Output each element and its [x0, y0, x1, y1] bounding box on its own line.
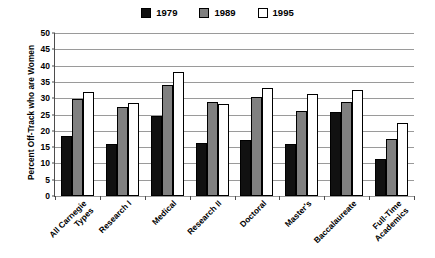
- legend-swatch-1989: [199, 8, 209, 18]
- bar-1989-6: [341, 102, 352, 196]
- bar-1989-0: [72, 99, 83, 196]
- bar-1995-4: [262, 88, 273, 196]
- bar-1979-5: [285, 144, 296, 196]
- bar-1995-3: [218, 104, 229, 196]
- y-tick-label: 35: [41, 78, 50, 87]
- y-tick-label: 25: [41, 110, 50, 119]
- bar-1995-6: [352, 90, 363, 196]
- bar-1995-5: [307, 94, 318, 196]
- bar-1989-2: [162, 85, 173, 196]
- x-tick-mark: [414, 196, 415, 200]
- y-tick-label: 10: [41, 159, 50, 168]
- bar-group: [55, 33, 100, 196]
- y-tick-label: 45: [41, 45, 50, 54]
- bar-1979-6: [330, 112, 341, 196]
- bar-1995-1: [128, 103, 139, 196]
- y-axis-title: Percent Off-Track who are Women: [24, 25, 38, 200]
- legend-entry-1995: 1995: [258, 8, 294, 18]
- bar-1979-4: [240, 140, 251, 196]
- legend-swatch-1979: [141, 8, 151, 18]
- bar-group: [279, 33, 324, 196]
- y-tick-label: 5: [45, 175, 50, 184]
- legend-entry-1979: 1979: [141, 8, 177, 18]
- bar-group: [190, 33, 235, 196]
- legend-swatch-1995: [258, 8, 268, 18]
- bar-1995-7: [397, 123, 408, 196]
- bar-1989-4: [251, 97, 262, 196]
- bar-1979-3: [196, 143, 207, 196]
- bar-group: [369, 33, 414, 196]
- y-tick-label: 0: [45, 192, 50, 201]
- bar-groups: [55, 33, 414, 196]
- bar-chart: 1979 1989 1995 Percent Off-Track who are…: [0, 0, 435, 258]
- legend-label-1979: 1979: [156, 8, 177, 18]
- bar-1979-0: [61, 136, 72, 196]
- bar-1995-0: [83, 92, 94, 196]
- legend-label-1995: 1995: [273, 8, 294, 18]
- y-tick-label: 20: [41, 127, 50, 136]
- y-tick-label: 15: [41, 143, 50, 152]
- y-tick-label: 30: [41, 94, 50, 103]
- legend-entry-1989: 1989: [199, 8, 235, 18]
- bar-1995-2: [173, 72, 184, 196]
- bar-1979-1: [106, 144, 117, 196]
- chart-legend: 1979 1989 1995: [0, 8, 435, 18]
- bar-1989-7: [386, 139, 397, 196]
- bar-group: [100, 33, 145, 196]
- bar-group: [145, 33, 190, 196]
- x-axis-labels: All Carnegie TypesResearch IMedicalResea…: [54, 197, 413, 258]
- plot-area: 05101520253035404550: [54, 33, 414, 197]
- y-tick-label: 50: [41, 29, 50, 38]
- bar-1979-7: [375, 159, 386, 196]
- bar-1989-3: [207, 102, 218, 196]
- bar-1989-1: [117, 107, 128, 196]
- y-tick-label: 40: [41, 61, 50, 70]
- bar-1989-5: [296, 111, 307, 196]
- bar-group: [235, 33, 280, 196]
- bar-1979-2: [151, 116, 162, 196]
- bar-group: [324, 33, 369, 196]
- legend-label-1989: 1989: [214, 8, 235, 18]
